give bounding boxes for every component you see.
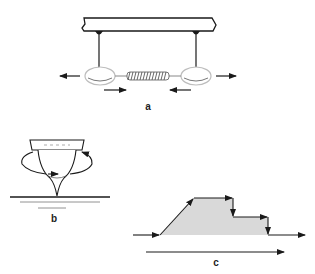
mass-right bbox=[181, 67, 211, 85]
beam bbox=[82, 18, 216, 31]
mass-left bbox=[85, 67, 115, 85]
panel-c: c bbox=[133, 198, 305, 268]
top-body bbox=[38, 150, 76, 196]
panel-a-label: a bbox=[145, 101, 151, 112]
panel-b-label: b bbox=[51, 213, 57, 224]
panel-a: a bbox=[60, 18, 236, 112]
panel-c-label: c bbox=[213, 257, 219, 268]
panel-b: b bbox=[10, 140, 110, 224]
diagram-canvas: a b c bbox=[0, 0, 315, 274]
